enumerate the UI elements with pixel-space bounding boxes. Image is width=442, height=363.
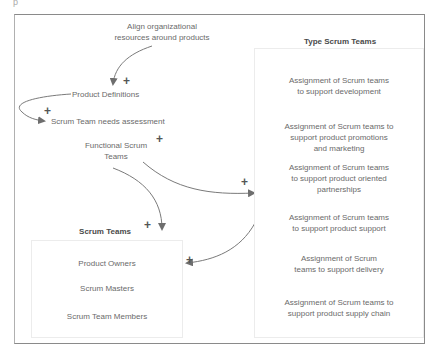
item-line: Assignment of Scrum teams <box>255 212 423 223</box>
item-line: teams to support delivery <box>255 264 423 275</box>
type-scrum-teams-item: Assignment of Scrum teams to support pro… <box>255 297 423 319</box>
scrum-teams-item: Scrum Team Members <box>32 311 182 322</box>
item-line: Assignment of Scrum <box>255 253 423 264</box>
type-scrum-teams-box: Assignment of Scrum teams to support dev… <box>254 48 424 338</box>
item-line: Assignment of Scrum teams to <box>255 121 423 132</box>
arrow-functional-to-type-scrum-teams <box>143 162 254 193</box>
polarity-plus: + <box>186 254 193 266</box>
polarity-plus: + <box>123 75 130 87</box>
node-functional-line1: Functional Scrum <box>80 140 152 151</box>
item-line: Assignment of Scrum teams <box>255 75 423 86</box>
node-functional-scrum-teams: Functional Scrum Teams <box>80 140 152 162</box>
node-functional-line2: Teams <box>80 151 152 162</box>
polarity-plus: + <box>156 133 163 145</box>
type-scrum-teams-item: Assignment of Scrum teams to support pro… <box>255 121 423 154</box>
arrow-type-scrum-teams-to-scrum-teams <box>187 223 255 263</box>
scrum-teams-item: Product Owners <box>32 258 182 269</box>
node-product-definitions: Product Definitions <box>72 89 162 100</box>
type-scrum-teams-item: Assignment of Scrum teams to support pro… <box>255 212 423 234</box>
node-align-line2: resources around products <box>100 32 224 43</box>
item-line: partnerships <box>255 184 423 195</box>
item-line: Assignment of Scrum teams <box>255 162 423 173</box>
node-align-resources: Align organizational resources around pr… <box>100 21 224 43</box>
node-needs-assessment: Scrum Team needs assessment <box>51 116 191 127</box>
item-line: support product supply chain <box>255 308 423 319</box>
polarity-plus: + <box>44 105 51 117</box>
type-scrum-teams-title: Type Scrum Teams <box>290 37 390 46</box>
polarity-plus: + <box>241 176 248 188</box>
node-align-line1: Align organizational <box>100 21 224 32</box>
scrum-teams-item: Scrum Masters <box>32 283 182 294</box>
type-scrum-teams-item: Assignment of Scrum teams to support dev… <box>255 75 423 97</box>
type-scrum-teams-item: Assignment of Scrum teams to support del… <box>255 253 423 275</box>
arrow-functional-to-scrum-teams <box>113 168 162 229</box>
type-scrum-teams-item: Assignment of Scrum teams to support pro… <box>255 162 423 195</box>
scrum-teams-title: Scrum Teams <box>70 227 140 236</box>
item-line: to support development <box>255 86 423 97</box>
item-line: Assignment of Scrum teams to <box>255 297 423 308</box>
item-line: support product promotions <box>255 132 423 143</box>
polarity-plus: + <box>144 219 151 231</box>
arrow-align-to-product-definitions <box>113 46 152 84</box>
item-line: to support product support <box>255 223 423 234</box>
item-line: to support product oriented <box>255 173 423 184</box>
scrum-teams-box: Product Owners Scrum Masters Scrum Team … <box>31 240 183 338</box>
item-line: and marketing <box>255 143 423 154</box>
